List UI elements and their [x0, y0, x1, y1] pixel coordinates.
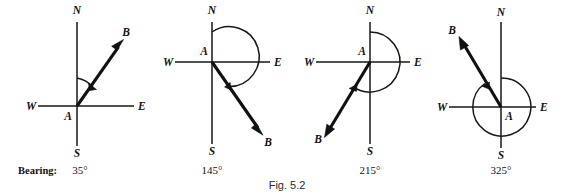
bearing-ray-ab [331, 62, 371, 128]
bearing-value-2: 145° [202, 164, 223, 176]
label-south: S [74, 147, 80, 159]
label-north: N [72, 4, 82, 16]
label-east: E [273, 56, 282, 68]
bearing-diagram-4: N S W E A B 325° [437, 6, 548, 176]
bearing-ray-ab [212, 62, 258, 128]
label-east: E [539, 101, 548, 113]
label-east: E [413, 56, 422, 68]
ray-arrowhead-icon [251, 123, 263, 135]
label-point-b: B [121, 26, 130, 38]
bearing-angle-arc [212, 27, 259, 87]
label-point-a: A [357, 45, 366, 57]
label-south: S [498, 149, 504, 161]
ray-arrowhead-icon [112, 40, 124, 51]
label-point-a: A [504, 110, 513, 122]
label-west: W [437, 101, 448, 113]
bearing-value-4: 325° [491, 164, 512, 176]
bearing-ray-ab [77, 47, 119, 106]
label-north: N [365, 4, 375, 16]
label-point-a: A [199, 45, 208, 57]
label-point-a: A [63, 110, 72, 122]
label-west: W [26, 100, 37, 112]
bearing-diagram-2: N S W E A B 145° [163, 4, 282, 176]
label-north: N [207, 4, 217, 16]
bearing-diagram-3: N S W E A B 215° [304, 4, 422, 176]
bearing-ray-ab [465, 46, 502, 108]
bearing-figure: N S W E A B Bearing: 35° N S W E A B 14 [0, 0, 575, 196]
bearing-diagram-1: N S W E A B Bearing: 35° [18, 4, 146, 176]
label-north: N [496, 6, 506, 18]
label-point-b: B [447, 24, 456, 36]
label-west: W [304, 56, 315, 68]
bearing-value-1: 35° [72, 164, 87, 176]
label-west: W [163, 56, 174, 68]
label-east: E [137, 100, 146, 112]
bearing-word-label: Bearing: [18, 165, 57, 176]
bearing-diagram-svg: N S W E A B Bearing: 35° N S W E A B 14 [0, 0, 575, 196]
arc-arrowhead-icon [349, 84, 357, 91]
label-point-b: B [313, 133, 322, 145]
label-south: S [209, 145, 215, 157]
label-point-b: B [263, 136, 272, 148]
bearing-value-3: 215° [360, 164, 381, 176]
figure-caption: Fig. 5.2 [269, 179, 306, 191]
label-south: S [367, 145, 373, 157]
